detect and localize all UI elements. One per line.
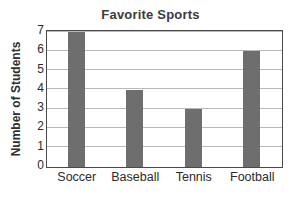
bar	[185, 109, 202, 167]
bar	[243, 51, 260, 167]
x-tick-label: Tennis	[176, 169, 212, 185]
y-tick-label: 2	[30, 120, 44, 132]
bar	[68, 32, 85, 167]
y-tick-label: 4	[30, 82, 44, 94]
y-axis-title: Number of Students	[9, 30, 23, 168]
x-tick-label: Baseball	[111, 169, 159, 185]
chart-title: Favorite Sports	[0, 7, 301, 22]
x-axis-tick-labels: SoccerBaseballTennisFootball	[46, 169, 283, 189]
bar	[126, 90, 143, 167]
bar-chart-figure: Favorite Sports Number of Students 01234…	[0, 0, 301, 197]
y-tick-label: 5	[30, 63, 44, 75]
y-tick-label: 6	[30, 43, 44, 55]
plot-area	[46, 30, 283, 168]
x-tick-label: Football	[230, 169, 274, 185]
plot-inner	[47, 31, 282, 167]
y-tick-label: 1	[30, 140, 44, 152]
y-axis-tick-labels: 01234567	[28, 30, 44, 168]
x-tick-label: Soccer	[57, 169, 96, 185]
y-tick-label: 7	[30, 24, 44, 36]
y-tick-label: 3	[30, 101, 44, 113]
y-tick-label: 0	[30, 159, 44, 171]
